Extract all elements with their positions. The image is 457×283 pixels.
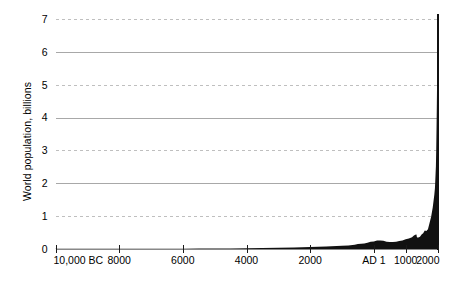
x-tick-label-0: 10,000 BC xyxy=(54,254,104,266)
x-tick-label-2: 6000 xyxy=(171,254,195,266)
chart-canvas: 01234567 10,000 BC8000600040002000AD 110… xyxy=(0,0,457,283)
axis-group xyxy=(56,14,439,250)
y-tick-label-1: 1 xyxy=(42,210,48,222)
x-tick-label-4: 2000 xyxy=(299,254,323,266)
world-population-chart: World population, billions 01234567 10,0… xyxy=(0,0,457,283)
x-tick-label-1: 8000 xyxy=(108,254,132,266)
y-tick-label-3: 3 xyxy=(42,144,48,156)
y-axis-tick-labels-group: 01234567 xyxy=(42,13,48,255)
y-tick-label-2: 2 xyxy=(42,177,48,189)
y-tick-label-5: 5 xyxy=(42,79,48,91)
x-tick-label-3: 4000 xyxy=(235,254,259,266)
y-tick-label-6: 6 xyxy=(42,46,48,58)
y-tick-label-7: 7 xyxy=(42,13,48,25)
x-tick-label-5: AD 1 xyxy=(362,254,386,266)
population-area-path xyxy=(56,19,438,249)
data-series-group xyxy=(56,19,438,249)
y-tick-label-0: 0 xyxy=(42,243,48,255)
x-tick-label-7: 2000 xyxy=(416,254,440,266)
x-axis-tick-labels-group: 10,000 BC8000600040002000AD 110002000 xyxy=(54,254,440,266)
gridlines-group xyxy=(56,20,438,217)
y-tick-label-4: 4 xyxy=(42,111,48,123)
x-tick-label-6: 1000 xyxy=(394,254,418,266)
